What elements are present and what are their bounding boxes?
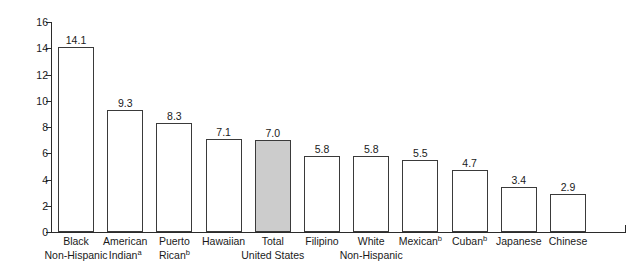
bar-value-label: 9.3 bbox=[118, 97, 133, 110]
bar-value-label: 7.0 bbox=[265, 127, 280, 140]
bar-value-label: 7.1 bbox=[216, 126, 231, 139]
x-axis-category-label: Chinese bbox=[523, 235, 613, 249]
x-axis-line bbox=[51, 232, 626, 233]
y-axis-tick-label: 2 bbox=[42, 199, 48, 213]
y-axis-tick-label: 14 bbox=[36, 41, 48, 55]
x-axis-right-cap bbox=[625, 225, 626, 233]
bar: 7.0 bbox=[255, 140, 291, 232]
y-axis-tick-label: 12 bbox=[36, 68, 48, 82]
bar-value-label: 14.1 bbox=[66, 34, 86, 47]
bar: 2.9 bbox=[550, 194, 586, 232]
bar-chart: Rate per 1,000 Live Births 0246810121416… bbox=[0, 0, 643, 275]
bar: 14.1 bbox=[58, 47, 94, 232]
y-axis-tick-label: 16 bbox=[36, 15, 48, 29]
bar: 5.8 bbox=[304, 156, 340, 232]
plot-area: 0246810121416 14.19.38.37.17.05.85.85.54… bbox=[51, 22, 626, 232]
x-axis-label-line2: United States bbox=[241, 249, 304, 261]
bar-value-label: 4.7 bbox=[462, 157, 477, 170]
y-axis-tick-label: 6 bbox=[42, 146, 48, 160]
bar-value-label: 5.8 bbox=[364, 143, 379, 156]
bar: 9.3 bbox=[107, 110, 143, 232]
y-axis-title: Rate per 1,000 Live Births bbox=[0, 0, 22, 22]
bar: 5.5 bbox=[402, 160, 438, 232]
y-axis-tick-label: 4 bbox=[42, 173, 48, 187]
bar-value-label: 8.3 bbox=[167, 110, 182, 123]
bar-value-label: 3.4 bbox=[511, 174, 526, 187]
bar: 5.8 bbox=[353, 156, 389, 232]
bar: 7.1 bbox=[206, 139, 242, 232]
x-axis-label-line2: Non-Hispanic bbox=[340, 249, 403, 261]
bar: 8.3 bbox=[156, 123, 192, 232]
x-axis-label-line1: Chinese bbox=[549, 235, 588, 247]
x-axis-labels: BlackNon-HispanicAmericanIndianaPuertoRi… bbox=[51, 235, 626, 275]
y-axis-tick-label: 8 bbox=[42, 120, 48, 134]
y-axis-tick-label: 10 bbox=[36, 94, 48, 108]
bar-value-label: 5.5 bbox=[413, 147, 428, 160]
bar-value-label: 5.8 bbox=[315, 143, 330, 156]
bar-value-label: 2.9 bbox=[561, 181, 576, 194]
y-axis-line bbox=[51, 22, 52, 233]
bar: 3.4 bbox=[501, 187, 537, 232]
x-axis-label-line2: Rican bbox=[159, 249, 186, 261]
bar: 4.7 bbox=[452, 170, 488, 232]
